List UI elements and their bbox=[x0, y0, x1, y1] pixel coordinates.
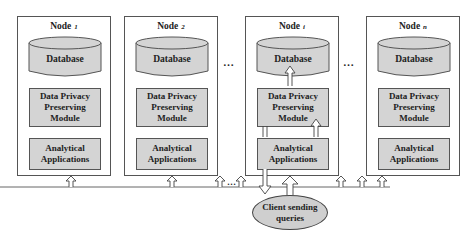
arrow-up-icon bbox=[282, 176, 298, 195]
client-line: Client sending bbox=[262, 202, 317, 213]
arrow-up-icon bbox=[215, 176, 225, 187]
arrow-down-icon bbox=[259, 169, 271, 194]
client-line: queries bbox=[276, 213, 304, 224]
connector bbox=[263, 126, 267, 137]
arrow-up-icon bbox=[377, 176, 387, 187]
arrow-up-icon bbox=[336, 176, 346, 187]
arrow-up-icon bbox=[285, 66, 295, 86]
arrow-up-icon bbox=[236, 176, 246, 187]
arrow-up-icon bbox=[66, 176, 76, 187]
connections-overlay: … bbox=[0, 0, 474, 239]
arrow-up-icon bbox=[357, 176, 367, 187]
arrow-up-icon bbox=[311, 119, 321, 137]
ellipsis: … bbox=[227, 177, 236, 187]
arrow-up-icon bbox=[167, 176, 177, 187]
client-sending-queries: Client sending queries bbox=[252, 195, 328, 230]
